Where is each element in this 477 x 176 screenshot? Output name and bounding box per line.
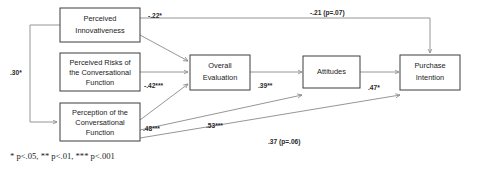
node-label-line: Evaluation	[203, 73, 238, 82]
coef-label-eval-to-attitudes: .39**	[258, 82, 273, 89]
node-label-line: Overall	[208, 61, 232, 70]
node-label-line: Attitudes	[317, 67, 346, 76]
coef-label-perception-to-attitudes: .53***	[206, 122, 223, 129]
coef-label-innov-to-eval: -.22*	[148, 12, 162, 19]
coef-label-perception-to-purchase: .37 (p=.06)	[268, 138, 300, 146]
node-perceived-risks[interactable]: Perceived Risks of the Conversational Fu…	[60, 53, 140, 91]
diagram-canvas: Perceived Innovativeness Perceived Risks…	[0, 0, 477, 176]
edge-innov-to-eval	[140, 35, 188, 61]
node-label-line: Function	[86, 78, 114, 87]
node-attitudes[interactable]: Attitudes	[303, 56, 360, 88]
node-label-line: Purchase	[414, 61, 445, 70]
coef-label-innov-to-perception: .30*	[10, 69, 22, 76]
node-label-line: the Conversational	[69, 68, 131, 77]
coef-label-attitudes-to-purchase: .47*	[368, 84, 380, 91]
significance-footnote: * p<.05, ** p<.01, *** p<.001	[10, 151, 115, 161]
node-label-line: Function	[86, 128, 114, 137]
node-overall-evaluation[interactable]: Overall Evaluation	[190, 55, 250, 90]
node-perceived-innovativeness[interactable]: Perceived Innovativeness	[60, 8, 140, 42]
node-label-line: Intention	[416, 73, 444, 82]
node-perception-function[interactable]: Perception of the Conversational Functio…	[60, 103, 140, 141]
edge-perception-to-eval	[140, 84, 188, 120]
node-label-line: Conversational	[75, 118, 125, 127]
coef-label-innov-to-purchase: -.21 (p=.07)	[310, 9, 345, 17]
node-purchase-intention[interactable]: Purchase Intention	[400, 55, 460, 90]
edge-innov-to-perception	[30, 25, 60, 122]
node-label-line: Perception of the	[72, 108, 128, 117]
node-label-line: Innovativeness	[75, 26, 125, 35]
coef-label-risks-to-eval: -.42***	[144, 82, 163, 89]
edge-perception-to-purchase	[140, 95, 400, 138]
path-diagram: Perceived Innovativeness Perceived Risks…	[0, 0, 477, 176]
coef-label-perception-to-eval: .48***	[143, 125, 160, 132]
node-label-line: Perceived Risks of	[69, 58, 131, 67]
edge-innov-to-purchase	[140, 18, 430, 53]
node-label-line: Perceived	[84, 14, 117, 23]
